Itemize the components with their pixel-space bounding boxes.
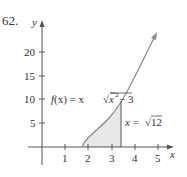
y-tick-label: 5	[30, 117, 36, 129]
shaded-area	[82, 102, 121, 147]
y-tick-label: 20	[24, 46, 36, 58]
x-tick-label: 2	[85, 152, 91, 164]
x-tick-label: 1	[62, 152, 68, 164]
sqrt-tail: − 3	[119, 93, 134, 105]
x-tick-label: 4	[132, 152, 138, 164]
function-graph: 1 2 3 4 5 20 15 10 5 x y f(x) = x √ x 2 …	[0, 0, 187, 177]
y-axis-label: y	[31, 16, 37, 28]
sqrt-inner: x	[108, 93, 114, 105]
curve-arrow-icon	[151, 32, 157, 40]
boundary-label: x =	[124, 116, 139, 128]
x-tick-label: 5	[155, 152, 161, 164]
x-axis-label: x	[169, 148, 175, 160]
function-label: f(x) = x	[51, 93, 85, 106]
sqrt12-value: 12	[151, 116, 162, 128]
y-axis-arrow-icon	[40, 20, 45, 27]
y-tick-label: 15	[24, 70, 36, 82]
y-tick-label: 10	[24, 93, 36, 105]
x-tick-label: 3	[109, 152, 115, 164]
